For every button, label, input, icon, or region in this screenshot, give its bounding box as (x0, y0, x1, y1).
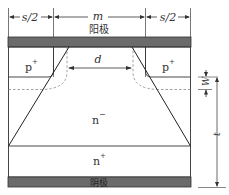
depletion-edge-left (9, 47, 68, 90)
svg-text:t: t (212, 132, 222, 136)
svg-text:d: d (94, 53, 101, 66)
svg-text:p: p (25, 61, 32, 74)
p-plus-label-left: p + (25, 58, 38, 74)
dimension-w: W (198, 70, 218, 97)
svg-text:+: + (100, 152, 106, 160)
svg-text:p: p (162, 61, 169, 74)
label-s-half-left: s/2 (22, 11, 38, 24)
svg-text:+: + (32, 58, 38, 66)
label-s-half-right: s/2 (160, 11, 176, 24)
anode-metal (8, 37, 191, 47)
diagram-canvas: s/2 m s/2 阳极 p + p + (0, 0, 229, 195)
anode-label: 阳极 (89, 23, 109, 35)
svg-text:−: − (99, 110, 106, 119)
spreading-line-left (9, 47, 70, 146)
cathode-label: 阴极 (90, 177, 108, 188)
svg-text:W: W (201, 76, 211, 86)
n-plus-label: n + (93, 152, 106, 168)
dimension-s-half-left: s/2 (9, 11, 53, 24)
n-minus-label: n − (92, 110, 106, 127)
dimension-t: t (198, 77, 226, 188)
p-plus-label-right: p + (162, 58, 175, 74)
dimension-s-half-right: s/2 (146, 11, 190, 24)
svg-text:+: + (169, 58, 175, 66)
label-m: m (93, 10, 103, 23)
dimension-m: m (54, 10, 145, 23)
dimension-d: d (68, 53, 132, 70)
